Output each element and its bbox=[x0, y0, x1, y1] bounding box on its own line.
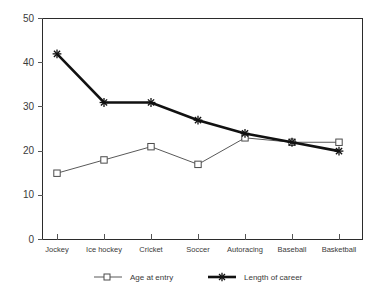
square-marker-icon bbox=[195, 161, 201, 167]
y-tick-label-30: 30 bbox=[23, 101, 35, 112]
y-axis-labels: 0 10 20 30 40 50 bbox=[23, 13, 35, 245]
x-tick-label-basketball: Basketball bbox=[322, 245, 357, 254]
x-axis-labels: Jockey Ice hockey Cricket Soccer Autorac… bbox=[45, 245, 356, 254]
star-marker-icon bbox=[288, 138, 297, 147]
x-tick-label-cricket: Cricket bbox=[139, 245, 163, 254]
y-tick-label-10: 10 bbox=[23, 189, 35, 200]
legend-item-age-at-entry[interactable]: Age at entry bbox=[94, 273, 173, 282]
x-axis-ticks bbox=[57, 234, 339, 240]
star-marker-icon bbox=[241, 129, 250, 138]
star-marker-icon bbox=[147, 98, 156, 107]
series-age-at-entry bbox=[54, 135, 342, 177]
y-axis-ticks bbox=[38, 19, 43, 240]
plot-frame bbox=[43, 19, 363, 240]
star-marker-icon bbox=[218, 273, 226, 281]
x-tick-label-baseball: Baseball bbox=[278, 245, 307, 254]
chart-legend: Age at entry Length of career bbox=[94, 273, 303, 282]
square-marker-icon bbox=[54, 170, 60, 176]
square-marker-icon bbox=[101, 157, 107, 163]
series-line bbox=[57, 54, 339, 151]
y-tick-label-20: 20 bbox=[23, 145, 35, 156]
star-marker-icon bbox=[194, 116, 203, 125]
legend-label-length-of-career: Length of career bbox=[244, 273, 303, 282]
legend-item-length-of-career[interactable]: Length of career bbox=[208, 273, 303, 282]
legend-label-age-at-entry: Age at entry bbox=[130, 273, 173, 282]
square-marker-icon bbox=[104, 274, 110, 280]
star-marker-icon bbox=[53, 49, 62, 58]
line-chart: 0 10 20 30 40 50 Jockey Ice hockey Crick… bbox=[0, 0, 377, 296]
y-tick-label-50: 50 bbox=[23, 13, 35, 24]
x-tick-label-ice-hockey: Ice hockey bbox=[86, 245, 122, 254]
data-series-layer bbox=[53, 49, 344, 176]
series-length-of-career bbox=[53, 49, 344, 155]
x-tick-label-jockey: Jockey bbox=[45, 245, 69, 254]
y-tick-label-0: 0 bbox=[28, 234, 34, 245]
square-marker-icon bbox=[148, 143, 154, 149]
square-marker-icon bbox=[336, 139, 342, 145]
x-tick-label-soccer: Soccer bbox=[186, 245, 210, 254]
chart-page: 0 10 20 30 40 50 Jockey Ice hockey Crick… bbox=[0, 0, 377, 296]
y-tick-label-40: 40 bbox=[23, 57, 35, 68]
star-marker-icon bbox=[335, 147, 344, 156]
x-tick-label-autoracing: Autoracing bbox=[227, 245, 263, 254]
star-marker-icon bbox=[100, 98, 109, 107]
